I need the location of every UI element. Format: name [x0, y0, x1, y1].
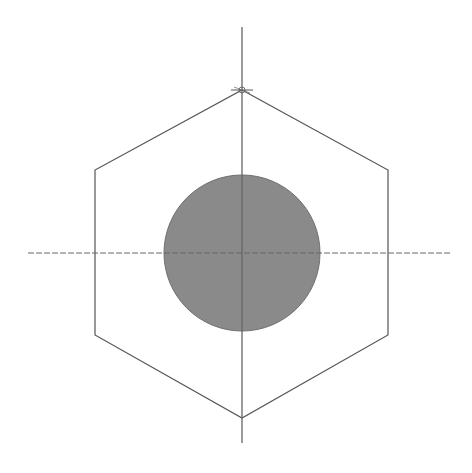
hex-nut-diagram — [0, 0, 472, 473]
